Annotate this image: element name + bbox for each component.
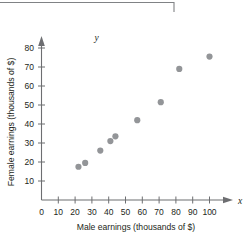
x-tick-label-80: 80 (171, 207, 181, 217)
x-axis-arrowhead (223, 197, 233, 204)
y-tick-label-40: 40 (25, 119, 35, 129)
data-point (176, 66, 182, 72)
plot-canvas: y x 0 10 20 30 40 50 60 70 80 90 100 (0, 0, 251, 240)
data-point (75, 164, 81, 170)
data-point (97, 148, 103, 154)
y-tick-label-70: 70 (25, 62, 35, 72)
scatter-plot-figure: y x 0 10 20 30 40 50 60 70 80 90 100 (0, 0, 251, 240)
x-tick-label-70: 70 (154, 207, 164, 217)
data-point (112, 133, 118, 139)
y-axis (38, 36, 45, 200)
x-tick-label-100: 100 (202, 207, 216, 217)
x-tick-label-40: 40 (104, 207, 114, 217)
y-tick-label-60: 60 (25, 81, 35, 91)
x-tick-label-10: 10 (54, 207, 64, 217)
data-point (107, 138, 113, 144)
x-tick-label-50: 50 (121, 207, 131, 217)
x-axis-title: Male earnings (thousands of $) (77, 222, 196, 232)
x-tick-label-60: 60 (138, 207, 148, 217)
data-point (158, 99, 164, 105)
y-tick-label-50: 50 (25, 100, 35, 110)
x-tick-label-20: 20 (70, 207, 80, 217)
y-tick-label-30: 30 (25, 138, 35, 148)
data-point (82, 160, 88, 166)
y-tick-label-80: 80 (25, 43, 35, 53)
x-tick-label-0: 0 (39, 207, 44, 217)
x-axis (42, 197, 234, 204)
y-tick-label-10: 10 (25, 176, 35, 186)
y-axis-symbol: y (93, 33, 99, 43)
y-tick-label-20: 20 (25, 157, 35, 167)
y-axis-arrowhead (38, 36, 45, 46)
x-tick-label-30: 30 (87, 207, 97, 217)
data-point (134, 117, 140, 123)
x-tick-label-90: 90 (188, 207, 198, 217)
data-point (206, 53, 212, 59)
data-points-layer (75, 53, 212, 169)
x-axis-symbol: x (237, 196, 243, 206)
top-frame-rule (0, 3, 174, 13)
y-axis-title: Female earnings (thousands of $) (6, 58, 16, 187)
